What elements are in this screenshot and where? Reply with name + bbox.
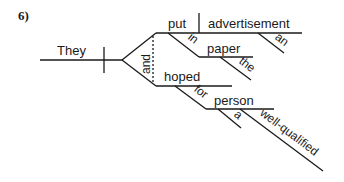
problem-number: 6) [18, 9, 29, 22]
prep-object-paper-word: paper [207, 42, 240, 55]
upper-verb-word: put [168, 17, 186, 30]
lower-verb-word: hoped [164, 70, 200, 83]
direct-object-word: advertisement [208, 17, 290, 30]
prep-object-person-word: person [214, 94, 254, 107]
conjunction-word: and [140, 54, 152, 74]
subject-word: They [57, 44, 86, 57]
